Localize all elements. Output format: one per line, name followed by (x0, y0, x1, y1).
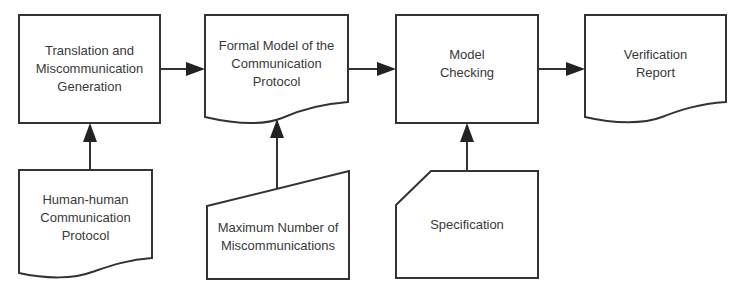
node-max-miscomm-label: Maximum Number of Miscommunications (207, 200, 349, 274)
arrowhead-icon (377, 62, 396, 76)
node-verification-report-label: Verification Report (585, 15, 726, 112)
node-specification-label: Specification (396, 171, 538, 278)
node-human-protocol-label: Human-human Communication Protocol (19, 170, 152, 266)
node-formal-model-label: Formal Model of the Communication Protoc… (205, 15, 348, 113)
arrowhead-icon (83, 123, 97, 142)
arrowhead-icon (460, 123, 474, 142)
node-model-checking-label: Model Checking (396, 15, 538, 113)
flowchart-canvas: Translation and Miscommunication Generat… (0, 0, 736, 299)
arrowhead-icon (186, 62, 205, 76)
arrowhead-icon (566, 62, 585, 76)
node-translation-label: Translation and Miscommunication Generat… (19, 15, 160, 123)
